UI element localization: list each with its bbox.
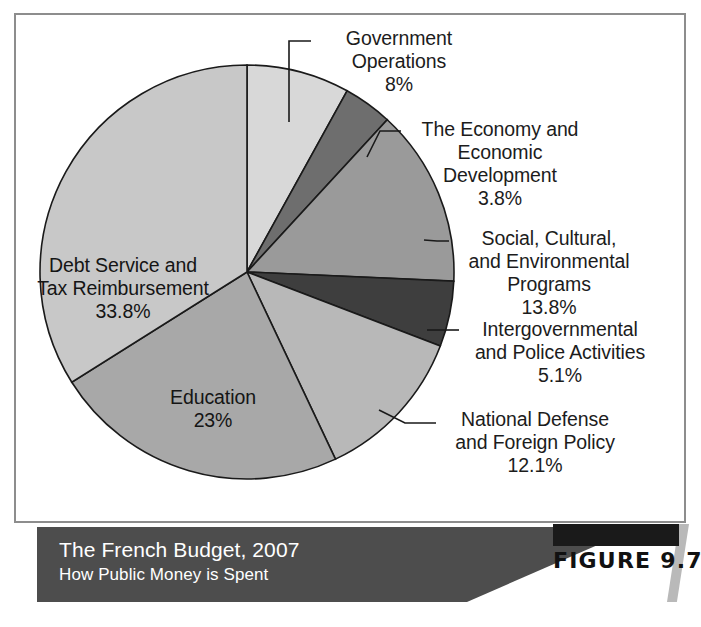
caption-bar: The French Budget, 2007 How Public Money… (37, 527, 639, 602)
caption-text-group: The French Budget, 2007 How Public Money… (59, 537, 479, 587)
slice-label-national-defense-and-foreign-policy: National Defense and Foreign Policy 12.1… (440, 408, 630, 477)
figure-number-label: FIGURE 9.7 (553, 548, 683, 573)
figure-number-rule (553, 524, 679, 546)
slice-label-government-operations: Government Operations 8% (314, 27, 484, 96)
pie-chart: Government Operations 8% The Economy and… (0, 0, 701, 527)
slice-label-debt-service-and-tax-reimbursement: Debt Service and Tax Reimbursement 33.8% (28, 254, 218, 323)
slice-label-education: Education 23% (140, 386, 286, 432)
slice-label-social-cultural-and-environmental-programs: Social, Cultural, and Environmental Prog… (452, 227, 646, 319)
caption-title: The French Budget, 2007 (59, 537, 479, 563)
slice-label-the-economy-and-economic-development: The Economy and Economic Development 3.8… (404, 118, 596, 210)
caption-subtitle: How Public Money is Spent (59, 563, 479, 587)
figure-number-block: FIGURE 9.7 (553, 524, 685, 602)
slice-label-intergovernmental-and-police-activities: Intergovernmental and Police Activities … (462, 318, 658, 387)
